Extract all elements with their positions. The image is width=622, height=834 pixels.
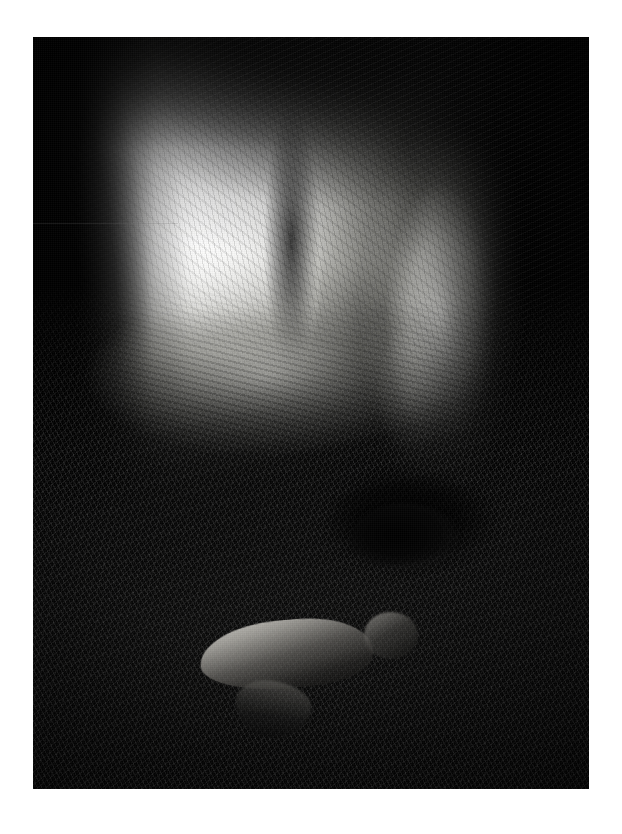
photo-print-area bbox=[33, 37, 589, 789]
figure-foreground bbox=[200, 612, 422, 710]
figure-background bbox=[350, 503, 461, 571]
figure-head bbox=[364, 612, 417, 659]
page-canvas: Black and white photograph looking out f… bbox=[0, 0, 622, 834]
print-seam-line bbox=[33, 223, 178, 224]
photo-description: Black and white photograph looking out f… bbox=[0, 0, 1, 1]
